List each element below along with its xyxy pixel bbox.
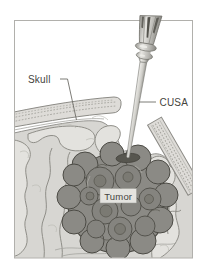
skull-label: Skull — [28, 74, 51, 85]
cusa-procedure-figure: Skull CUSA Tumor — [0, 0, 207, 270]
cusa-label: CUSA — [160, 97, 189, 108]
medical-illustration-canvas: Skull CUSA Tumor — [0, 0, 207, 270]
tumor-label: Tumor — [104, 191, 132, 202]
